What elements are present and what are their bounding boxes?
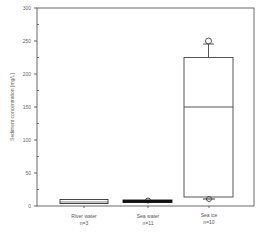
y-axis-title: Sediment concentration [mg/L] [9, 72, 15, 140]
count-label-sea-ice: n=10 [203, 219, 214, 225]
y-axis [34, 8, 39, 206]
outlier-point [206, 38, 212, 44]
box-sea-ice [184, 38, 233, 202]
count-label-sea-water: n=11 [143, 220, 154, 226]
ytick-200: 200 [23, 71, 32, 77]
ytick-50: 50 [25, 170, 31, 176]
box-sea-water [123, 198, 172, 203]
category-label-river-water: River water [71, 213, 97, 219]
box-river-water [60, 200, 108, 204]
ytick-150: 150 [23, 104, 32, 110]
ytick-0: 0 [28, 203, 31, 209]
count-label-river-water: n=3 [80, 220, 89, 226]
ytick-300: 300 [23, 5, 32, 11]
category-label-sea-ice: Sea ice [201, 212, 218, 218]
ytick-250: 250 [23, 38, 32, 44]
ytick-100: 100 [23, 137, 32, 143]
box-plot: 0 50 100 150 200 250 300 Sediment concen… [0, 0, 262, 237]
category-label-sea-water: Sea water [137, 213, 160, 219]
